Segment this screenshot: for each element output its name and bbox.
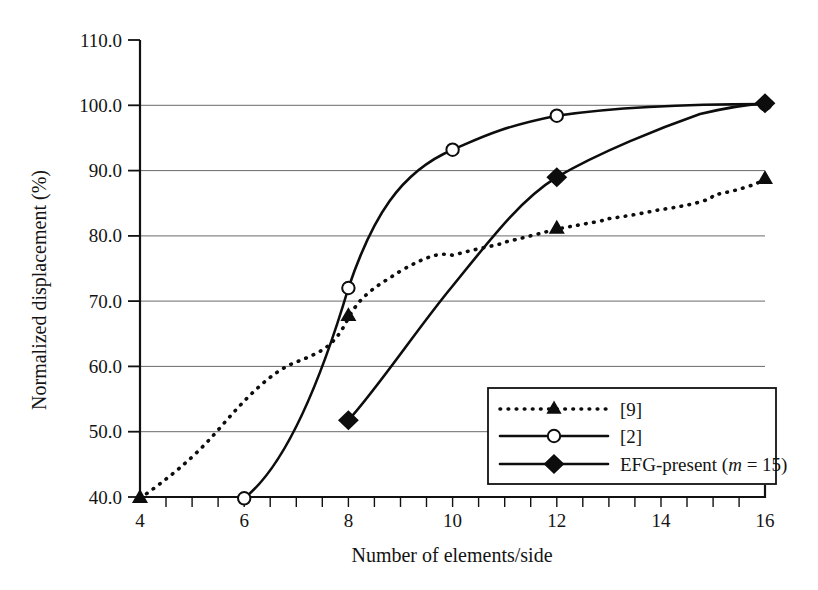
triangle-marker bbox=[342, 309, 356, 321]
x-tick-label: 12 bbox=[547, 510, 566, 531]
y-tick-label: 110.0 bbox=[80, 30, 122, 51]
legend: [9] [2] EFG-present (m = 15) bbox=[488, 388, 787, 484]
x-axis-title: Number of elements/side bbox=[351, 544, 552, 566]
legend-label-efg-present: EFG-present (m = 15) bbox=[620, 454, 787, 476]
y-axis-title: Normalized displacement (%) bbox=[28, 170, 51, 410]
legend-label-ref2: [2] bbox=[620, 426, 642, 447]
y-axis bbox=[128, 40, 140, 497]
legend-label-italic: m bbox=[728, 454, 742, 475]
diamond-marker bbox=[756, 94, 775, 112]
x-tick-label: 4 bbox=[135, 510, 145, 531]
x-tick-label: 14 bbox=[652, 510, 672, 531]
circle-marker bbox=[342, 282, 354, 294]
legend-label-suffix: = 15) bbox=[742, 454, 788, 476]
y-tick-labels: 110.0 100.0 90.0 80.0 70.0 60.0 50.0 40.… bbox=[79, 30, 122, 508]
x-tick-labels: 4 6 8 10 12 14 16 bbox=[135, 510, 774, 531]
legend-label-ref9: [9] bbox=[620, 399, 642, 420]
x-axis bbox=[140, 485, 765, 497]
circle-marker bbox=[551, 110, 563, 122]
y-tick-label: 50.0 bbox=[89, 421, 122, 442]
x-minor-ticks bbox=[166, 497, 739, 507]
circle-marker bbox=[238, 492, 250, 504]
y-tick-label: 40.0 bbox=[89, 487, 122, 508]
y-tick-label: 80.0 bbox=[89, 225, 122, 246]
y-tick-label: 100.0 bbox=[79, 95, 122, 116]
y-tick-label: 90.0 bbox=[89, 160, 122, 181]
legend-label-prefix: EFG-present ( bbox=[620, 454, 728, 476]
series-efg-present-markers bbox=[339, 94, 774, 429]
y-tick-label: 70.0 bbox=[89, 291, 122, 312]
x-tick-label: 16 bbox=[756, 510, 775, 531]
chart-figure: 110.0 100.0 90.0 80.0 70.0 60.0 50.0 40.… bbox=[0, 0, 818, 590]
x-tick-label: 10 bbox=[443, 510, 462, 531]
x-tick-label: 8 bbox=[344, 510, 354, 531]
y-tick-label: 60.0 bbox=[89, 356, 122, 377]
line-chart: 110.0 100.0 90.0 80.0 70.0 60.0 50.0 40.… bbox=[0, 0, 818, 590]
circle-marker bbox=[446, 144, 458, 156]
x-tick-label: 6 bbox=[239, 510, 249, 531]
series-efg-present-line bbox=[348, 103, 765, 420]
series-efg-present bbox=[339, 94, 774, 429]
triangle-marker bbox=[758, 172, 772, 184]
circle-icon bbox=[548, 430, 560, 442]
